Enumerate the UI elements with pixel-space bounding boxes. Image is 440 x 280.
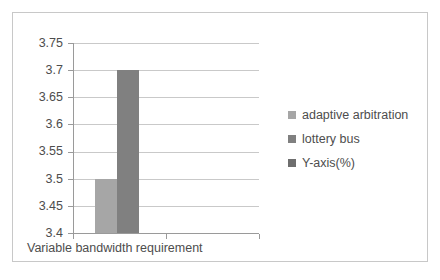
x-axis-tick bbox=[166, 234, 167, 239]
y-tick-label: 3.45 bbox=[15, 200, 63, 213]
legend-item-label: Y-axis(%) bbox=[302, 157, 355, 170]
y-tick-label: 3.7 bbox=[15, 64, 63, 77]
legend-swatch-icon bbox=[288, 135, 296, 143]
legend-item-y-axis-percent[interactable]: Y-axis(%) bbox=[288, 156, 423, 170]
gridline bbox=[73, 70, 259, 71]
y-tick-label: 3.75 bbox=[15, 37, 63, 50]
gridline bbox=[73, 152, 259, 153]
chart-legend: adaptive arbitration lottery bus Y-axis(… bbox=[288, 108, 423, 180]
x-axis-tick bbox=[259, 234, 260, 239]
bar-adaptive-arbitration bbox=[95, 179, 117, 233]
y-tick-label: 3.6 bbox=[15, 118, 63, 131]
legend-item-adaptive-arbitration[interactable]: adaptive arbitration bbox=[288, 108, 423, 122]
plot-area bbox=[73, 43, 259, 233]
legend-item-label: lottery bus bbox=[302, 133, 360, 146]
gridline bbox=[73, 124, 259, 125]
legend-swatch-icon bbox=[288, 159, 296, 167]
y-tick-label: 3.55 bbox=[15, 145, 63, 158]
y-axis-line bbox=[73, 43, 74, 234]
x-axis-tick bbox=[73, 234, 74, 239]
chart-container: 3.75 3.7 3.65 3.6 3.55 3.5 3.45 3.4 Vari… bbox=[12, 12, 428, 262]
gridline bbox=[73, 43, 259, 44]
gridline bbox=[73, 97, 259, 98]
y-tick-label: 3.5 bbox=[15, 173, 63, 186]
bar-lottery-bus bbox=[117, 70, 139, 233]
x-axis-title: Variable bandwidth requirement bbox=[27, 241, 203, 255]
y-tick-label: 3.4 bbox=[15, 227, 63, 240]
legend-swatch-icon bbox=[288, 111, 296, 119]
y-tick-label: 3.65 bbox=[15, 91, 63, 104]
legend-item-label: adaptive arbitration bbox=[302, 109, 408, 122]
legend-item-lottery-bus[interactable]: lottery bus bbox=[288, 132, 423, 146]
